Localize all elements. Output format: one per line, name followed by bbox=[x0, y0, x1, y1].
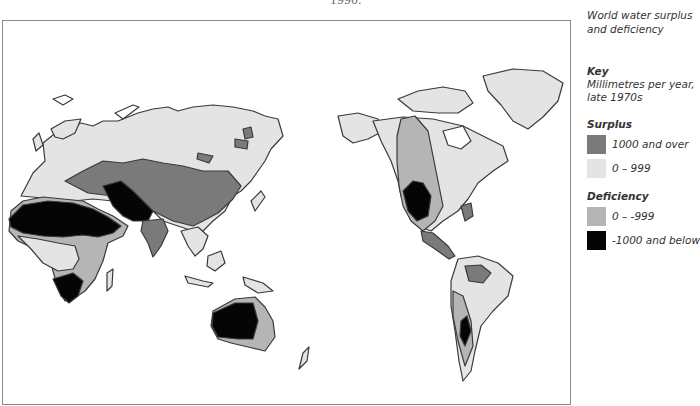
new-guinea bbox=[243, 277, 273, 293]
key-heading: Key bbox=[587, 65, 609, 77]
legend-label: 1000 and over bbox=[612, 138, 689, 150]
map-svg bbox=[3, 21, 572, 406]
swatch-black bbox=[587, 231, 606, 250]
swatch-light-gray bbox=[587, 159, 606, 178]
british-isles bbox=[33, 133, 43, 151]
legend-label: 0 – -999 bbox=[612, 210, 654, 222]
madagascar bbox=[107, 269, 113, 291]
japan bbox=[251, 191, 265, 211]
legend-item-deficiency-high: -1000 and below bbox=[587, 230, 700, 250]
siberia-surplus-1 bbox=[243, 127, 253, 139]
new-zealand bbox=[299, 347, 309, 369]
legend-label: -1000 and below bbox=[612, 234, 700, 246]
southeast-asia bbox=[181, 227, 208, 256]
central-america bbox=[421, 231, 455, 259]
legend-group-deficiency: Deficiency bbox=[587, 190, 649, 202]
svalbard bbox=[53, 95, 73, 105]
key-subtitle: Millimetres per year, late 1970s bbox=[587, 78, 695, 104]
swatch-dark-gray bbox=[587, 135, 606, 154]
india bbox=[141, 219, 168, 257]
header-fragment: 1990. bbox=[330, 0, 362, 7]
sahara-deficit bbox=[9, 201, 121, 237]
legend-title: World water surplus and deficiency bbox=[587, 8, 695, 36]
legend-item-surplus-high: 1000 and over bbox=[587, 134, 689, 154]
north-america-landmass bbox=[373, 117, 508, 231]
swatch-mid-gray bbox=[587, 207, 606, 226]
legend-item-surplus-low: 0 – 999 bbox=[587, 158, 651, 178]
legend-item-deficiency-low: 0 – -999 bbox=[587, 206, 654, 226]
greenland bbox=[483, 69, 563, 129]
se-us-surplus bbox=[461, 203, 473, 221]
legend-group-surplus: Surplus bbox=[587, 118, 632, 130]
borneo bbox=[207, 251, 225, 271]
indonesia bbox=[185, 276, 213, 287]
world-map bbox=[2, 20, 571, 405]
southern-africa-deficit bbox=[53, 273, 83, 303]
arctic-islands bbox=[398, 87, 473, 113]
siberia-surplus-2 bbox=[235, 139, 248, 149]
legend-label: 0 – 999 bbox=[612, 162, 651, 174]
